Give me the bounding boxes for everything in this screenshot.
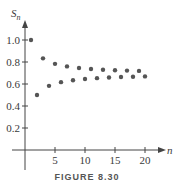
data-point: [53, 62, 57, 66]
y-tick-label: 1.0: [6, 34, 20, 46]
x-tick-label: 15: [110, 154, 122, 166]
data-point: [143, 74, 147, 78]
y-axis-label: Sn: [11, 7, 21, 22]
y-tick-label: 0.4: [6, 100, 20, 112]
x-tick-label: 5: [52, 154, 58, 166]
figure-caption: FIGURE 8.30: [0, 172, 174, 181]
chart: Snn 51015200.20.40.60.81.0: [0, 0, 174, 181]
data-point: [71, 78, 75, 82]
data-point: [101, 68, 105, 72]
data-point: [83, 77, 87, 81]
ticks: 51015200.20.40.60.81.0: [6, 34, 151, 166]
data-point: [47, 84, 51, 88]
axes: Snn: [11, 7, 173, 170]
data-point: [113, 68, 117, 72]
x-axis-arrow-icon: [158, 147, 166, 153]
data-point: [41, 56, 45, 60]
y-tick-label: 0.2: [6, 122, 20, 134]
x-tick-label: 20: [140, 154, 152, 166]
data-points: [29, 38, 147, 97]
data-point: [77, 66, 81, 70]
y-tick-label: 0.6: [6, 78, 20, 90]
data-point: [59, 80, 63, 84]
data-point: [107, 75, 111, 79]
y-tick-label: 0.8: [6, 56, 20, 68]
data-point: [35, 93, 39, 97]
data-point: [131, 75, 135, 79]
x-tick-label: 10: [80, 154, 92, 166]
data-point: [89, 67, 93, 71]
y-axis-arrow-icon: [22, 20, 28, 28]
data-point: [125, 68, 129, 72]
x-axis-label: n: [167, 144, 173, 156]
data-point: [29, 38, 33, 42]
data-point: [95, 76, 99, 80]
data-point: [137, 69, 141, 73]
data-point: [65, 64, 69, 68]
data-point: [119, 75, 123, 79]
